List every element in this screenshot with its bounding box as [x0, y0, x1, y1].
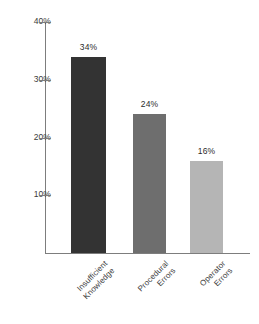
bar-chart: 40%30%20%10% 34%24%16% Insufficient Know…: [0, 0, 259, 324]
y-tick-20: 20%: [0, 138, 51, 139]
bar-value-label: 24%: [123, 100, 176, 109]
y-tick-mark: [39, 195, 51, 196]
bar-value-label: 16%: [180, 147, 233, 156]
x-axis-line: [45, 253, 250, 254]
y-tick-30: 30%: [0, 80, 51, 81]
y-tick-40: 40%: [0, 22, 51, 23]
bar: [71, 57, 106, 253]
category-label: Insufficient Knowledge: [46, 259, 117, 324]
y-tick-10: 10%: [0, 195, 51, 196]
bar: [190, 161, 223, 253]
y-tick-mark: [39, 80, 51, 81]
y-tick-mark: [39, 22, 51, 23]
bar-value-label: 34%: [61, 43, 116, 52]
bar: [133, 114, 166, 253]
y-tick-mark: [39, 138, 51, 139]
